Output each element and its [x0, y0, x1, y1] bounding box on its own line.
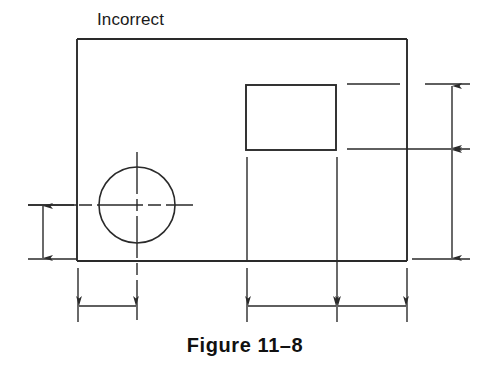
figure-container: Incorrect [0, 0, 490, 369]
inner-rect-outline [246, 85, 336, 150]
right-vertical-dimensions [347, 84, 470, 259]
bottom-extension-lines [78, 157, 407, 322]
left-vertical-dimension [28, 205, 77, 259]
inner-rectangle [246, 85, 336, 150]
outer-rectangle [77, 39, 407, 261]
figure-caption: Figure 11–8 [0, 334, 490, 357]
circle-feature [28, 152, 193, 320]
engineering-drawing [0, 0, 490, 369]
